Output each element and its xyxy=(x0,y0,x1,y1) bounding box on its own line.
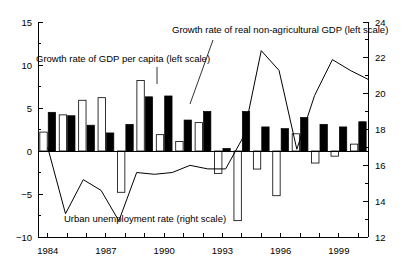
bar-nonagricultural-gdp-1999 xyxy=(339,127,346,151)
bar-nonagricultural-gdp-2000 xyxy=(359,122,366,151)
y-axis-right-label-12: 12 xyxy=(375,232,386,243)
y-axis-right-label-14: 14 xyxy=(375,196,386,207)
y-axis-left-label--5: −5 xyxy=(21,189,32,200)
ann-urban-unemployment-text: Urban unemployment rate (right scale) xyxy=(64,213,226,224)
bar-nonagricultural-gdp-1990 xyxy=(165,96,172,151)
x-axis-label-1990: 1990 xyxy=(154,245,175,256)
bar-gdp-per-capita-1994 xyxy=(234,151,241,221)
y-axis-left-label-5: 5 xyxy=(27,103,32,114)
bar-gdp-per-capita-1984 xyxy=(40,132,47,151)
bar-gdp-per-capita-1993 xyxy=(215,151,222,173)
y-axis-left-label-10: 10 xyxy=(21,60,32,71)
x-axis-label-1996: 1996 xyxy=(270,245,291,256)
bar-gdp-per-capita-1991 xyxy=(176,142,183,151)
bar-nonagricultural-gdp-1984 xyxy=(48,112,55,151)
y-axis-left-label-15: 15 xyxy=(21,17,32,28)
bar-nonagricultural-gdp-1987 xyxy=(106,133,113,151)
bar-gdp-per-capita-1985 xyxy=(59,115,66,151)
bar-nonagricultural-gdp-1995 xyxy=(262,127,269,151)
bar-gdp-per-capita-1996 xyxy=(273,151,280,196)
bar-nonagricultural-gdp-1991 xyxy=(184,120,191,151)
x-axis-label-1999: 1999 xyxy=(328,245,349,256)
bar-gdp-per-capita-1999 xyxy=(331,151,338,156)
bar-gdp-per-capita-2000 xyxy=(350,144,357,151)
bar-nonagricultural-gdp-1998 xyxy=(320,124,327,151)
y-axis-left-label-0: 0 xyxy=(27,146,32,157)
bar-nonagricultural-gdp-1994 xyxy=(242,111,249,151)
chart-container: −10−5051015 12141618202224 1984198719901… xyxy=(0,0,411,270)
y-axis-right-label-16: 16 xyxy=(375,160,386,171)
x-axis-label-1984: 1984 xyxy=(37,245,58,256)
bar-nonagricultural-gdp-1989 xyxy=(145,97,152,151)
bar-gdp-per-capita-1992 xyxy=(195,123,202,151)
bar-gdp-per-capita-1997 xyxy=(292,134,299,151)
y-axis-right-label-20: 20 xyxy=(375,88,386,99)
y-axis-right-label-22: 22 xyxy=(375,52,386,63)
bar-nonagricultural-gdp-1985 xyxy=(68,116,75,151)
y-axis-right-label-18: 18 xyxy=(375,124,386,135)
x-axis-label-1987: 1987 xyxy=(95,245,116,256)
bar-gdp-per-capita-1986 xyxy=(79,100,86,151)
bar-nonagricultural-gdp-1992 xyxy=(204,111,211,151)
ann-nonagri-gdp-text: Growth rate of real non-agricultural GDP… xyxy=(172,24,388,35)
bar-nonagricultural-gdp-1996 xyxy=(281,129,288,151)
bar-gdp-per-capita-1995 xyxy=(253,151,260,169)
bar-gdp-per-capita-1998 xyxy=(312,151,319,163)
ann-gdp-per-capita-text: Growth rate of GDP per capita (left scal… xyxy=(36,53,210,64)
bar-gdp-per-capita-1989 xyxy=(137,80,144,151)
x-axis-label-1993: 1993 xyxy=(212,245,233,256)
bar-gdp-per-capita-1990 xyxy=(156,135,163,151)
economic-indicators-chart: −10−5051015 12141618202224 1984198719901… xyxy=(0,0,411,270)
bar-nonagricultural-gdp-1988 xyxy=(126,124,133,151)
bar-nonagricultural-gdp-1986 xyxy=(87,125,94,151)
bar-gdp-per-capita-1987 xyxy=(98,98,105,151)
y-axis-left-label--10: −10 xyxy=(16,232,32,243)
bar-gdp-per-capita-1988 xyxy=(117,151,124,192)
